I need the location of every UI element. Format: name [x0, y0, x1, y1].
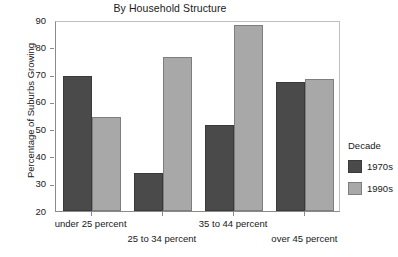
bar-1970s-under-25-percent	[63, 76, 92, 211]
y-tick-mark	[50, 130, 54, 131]
x-tick-label-35-to-44-percent: 35 to 44 percent	[199, 218, 268, 229]
y-axis-title: Percentage of Suburbs Growing	[25, 11, 36, 211]
y-tick-label: 60	[35, 96, 46, 107]
legend-title: Decade	[348, 140, 398, 151]
bar-1990s-35-to-44-percent	[234, 25, 263, 211]
bar-1990s-25-to-34-percent	[163, 57, 192, 211]
x-tick-mark	[91, 212, 92, 216]
legend: Decade 1970s1990s	[348, 140, 398, 204]
legend-swatch-1990s	[348, 182, 362, 195]
y-tick-label: 30	[35, 178, 46, 189]
bar-1990s-under-25-percent	[92, 117, 121, 211]
bar-1970s-over-45-percent	[276, 82, 305, 211]
legend-swatch-1970s	[348, 160, 362, 173]
legend-label: 1970s	[367, 161, 393, 172]
plot-area	[55, 21, 340, 212]
x-tick-label-25-to-34-percent: 25 to 34 percent	[128, 233, 197, 244]
x-tick-mark	[304, 212, 305, 216]
legend-entries: 1970s1990s	[348, 160, 398, 195]
y-tick-label: 80	[35, 42, 46, 53]
y-tick-label: 50	[35, 124, 46, 135]
chart-title: By Household Structure	[0, 2, 340, 14]
legend-label: 1990s	[367, 183, 393, 194]
bar-1970s-25-to-34-percent	[134, 173, 163, 211]
x-tick-label-under-25-percent: under 25 percent	[55, 218, 127, 229]
y-tick-label: 70	[35, 69, 46, 80]
bars-container	[56, 22, 339, 211]
y-tick-mark	[50, 103, 54, 104]
y-tick-mark	[50, 185, 54, 186]
legend-item-1970s[interactable]: 1970s	[348, 160, 398, 173]
legend-item-1990s[interactable]: 1990s	[348, 182, 398, 195]
y-tick-mark	[50, 157, 54, 158]
y-tick-label: 90	[35, 15, 46, 26]
x-tick-mark	[233, 212, 234, 216]
bar-1990s-over-45-percent	[305, 79, 334, 211]
y-tick-mark	[50, 48, 54, 49]
x-tick-mark	[162, 212, 163, 216]
bar-1970s-35-to-44-percent	[205, 125, 234, 211]
x-tick-label-over-45-percent: over 45 percent	[271, 233, 337, 244]
y-tick-label: 40	[35, 151, 46, 162]
y-tick-mark	[50, 76, 54, 77]
y-tick-label: 20	[35, 206, 46, 217]
bar-chart: By Household Structure Percentage of Sub…	[0, 0, 398, 257]
